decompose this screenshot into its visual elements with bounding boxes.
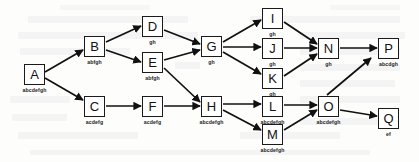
node-J-letter: J [269, 42, 276, 55]
node-K-annotation: gh [269, 91, 276, 97]
node-H-letter: H [207, 100, 216, 113]
node-D-annotation: gh [149, 39, 156, 45]
node-F-annotation: acdefg [144, 119, 161, 125]
node-H-annotation: abcdefgh [200, 119, 224, 125]
node-E[interactable]: E [142, 52, 163, 73]
node-O-letter: O [323, 100, 333, 113]
edge-H-M [223, 110, 261, 130]
node-C[interactable]: C [84, 96, 105, 117]
edge-K-N [284, 54, 317, 76]
node-O[interactable]: O [318, 96, 339, 117]
node-B-annotation: abfgh [87, 59, 102, 65]
edge-E-G [164, 50, 200, 60]
node-A[interactable]: A [24, 64, 45, 85]
node-G-letter: G [206, 40, 216, 53]
edge-M-O [284, 110, 317, 130]
node-E-annotation: abfgh [145, 75, 160, 81]
node-D[interactable]: D [142, 16, 163, 37]
node-P-annotation: abcdgh [379, 61, 398, 67]
node-Q-annotation: ef [386, 131, 391, 137]
diagram-canvas: A B C D E F G H I J K L M N O P Q abcdef… [0, 0, 419, 162]
node-N-letter: N [324, 42, 333, 55]
node-A-letter: A [30, 68, 39, 81]
node-K[interactable]: K [262, 68, 283, 89]
node-N[interactable]: N [318, 38, 339, 59]
node-M[interactable]: M [262, 124, 283, 145]
node-H[interactable]: H [201, 96, 222, 117]
node-J[interactable]: J [262, 38, 283, 59]
edge-layer [0, 0, 419, 162]
node-I-letter: I [271, 12, 275, 25]
edge-B-D [106, 26, 141, 42]
node-O-annotation: abcdefgh [317, 119, 341, 125]
node-P-letter: P [384, 42, 393, 55]
edge-E-H [164, 68, 200, 102]
node-K-letter: K [268, 72, 277, 85]
node-E-letter: E [148, 56, 157, 69]
node-J-annotation: gh [269, 61, 276, 67]
node-Q-letter: Q [383, 112, 393, 125]
node-B[interactable]: B [84, 36, 105, 57]
node-L[interactable]: L [262, 96, 283, 117]
node-P[interactable]: P [378, 38, 399, 59]
node-M-letter: M [267, 128, 278, 141]
edge-D-G [164, 30, 200, 44]
edge-O-Q [340, 110, 377, 116]
edge-B-E [106, 50, 141, 62]
node-Q[interactable]: Q [378, 108, 399, 129]
node-F[interactable]: F [142, 96, 163, 117]
node-I[interactable]: I [262, 8, 283, 29]
node-B-letter: B [90, 40, 99, 53]
node-M-annotation: abcdefgh [261, 147, 285, 153]
node-C-annotation: acdefg [86, 119, 103, 125]
node-G[interactable]: G [201, 36, 222, 57]
node-D-letter: D [148, 20, 157, 33]
node-L-annotation: abcdefgh [261, 119, 285, 125]
edge-G-K [223, 52, 261, 74]
node-G-annotation: gh [208, 59, 215, 65]
node-I-annotation: gh [269, 31, 276, 37]
node-L-letter: L [269, 100, 276, 113]
node-N-annotation: gh [325, 61, 332, 67]
node-A-annotation: abcdefgh [23, 87, 47, 93]
edge-G-I [223, 20, 261, 42]
edge-O-P [327, 58, 371, 95]
edge-A-B [45, 50, 83, 72]
edge-I-N [284, 22, 317, 44]
node-C-letter: C [90, 100, 99, 113]
edge-A-C [45, 78, 83, 100]
node-F-letter: F [149, 100, 157, 113]
